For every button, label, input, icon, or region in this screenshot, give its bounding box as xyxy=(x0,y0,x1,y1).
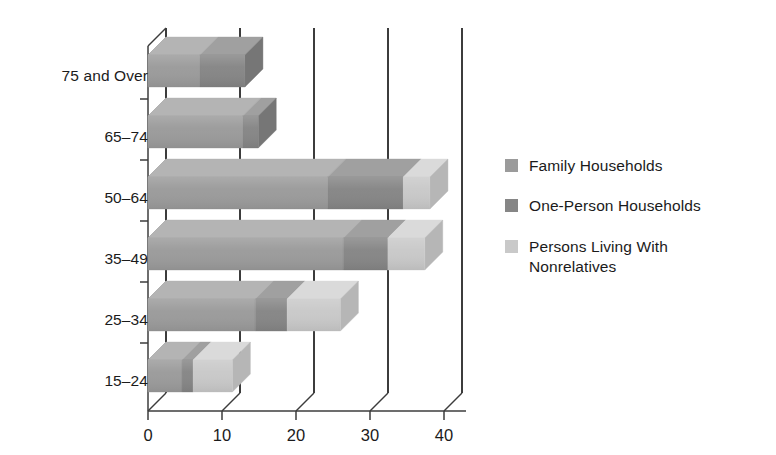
bar-top-face xyxy=(148,98,261,116)
y-axis-label-75-and-over: 75 and Over xyxy=(62,68,148,84)
bar-front-shading xyxy=(148,177,430,209)
bar-front-shading xyxy=(148,238,425,270)
y-axis-label-50-64: 50–64 xyxy=(104,190,148,206)
bar-front-shading xyxy=(148,299,340,331)
bar-front-shading xyxy=(148,116,258,148)
bar-top-face xyxy=(148,281,273,299)
x-axis xyxy=(148,411,466,420)
legend-item-persons-living-with-nonrelatives: Persons Living With Nonrelatives xyxy=(505,237,770,278)
bar-chart: 75 and Over 65–74 50–64 35–49 25–34 15–2… xyxy=(0,0,776,455)
legend-swatch-persons-living-with-nonrelatives xyxy=(505,240,518,253)
y-axis-label-65-74: 65–74 xyxy=(104,129,148,145)
x-axis-tick-20: 20 xyxy=(281,427,311,444)
bar-front-shading xyxy=(148,55,245,87)
legend-label-family-households: Family Households xyxy=(529,156,663,176)
x-axis-tick-0: 0 xyxy=(133,427,163,444)
y-axis-label-35-49: 35–49 xyxy=(104,251,148,267)
chart-legend: Family Households One-Person Households … xyxy=(505,156,770,278)
grid-depth-lines xyxy=(148,393,462,411)
legend-item-family-households: Family Households xyxy=(505,156,770,176)
legend-label-persons-living-with-nonrelatives: Persons Living With Nonrelatives xyxy=(529,237,704,278)
bar-front-shading xyxy=(148,360,232,392)
legend-swatch-one-person-households xyxy=(505,199,518,212)
y-axis-label-25-34: 25–34 xyxy=(104,312,148,328)
x-axis-tick-40: 40 xyxy=(429,427,459,444)
bar-top-face xyxy=(148,220,361,238)
x-axis-tick-10: 10 xyxy=(207,427,237,444)
x-axis-tick-30: 30 xyxy=(355,427,385,444)
legend-swatch-family-households xyxy=(505,159,518,172)
y-axis-label-15-24: 15–24 xyxy=(104,373,148,389)
bar-top-face xyxy=(148,159,346,177)
legend-label-one-person-households: One-Person Households xyxy=(529,196,701,216)
legend-item-one-person-households: One-Person Households xyxy=(505,196,770,216)
bars-layer xyxy=(148,37,448,392)
